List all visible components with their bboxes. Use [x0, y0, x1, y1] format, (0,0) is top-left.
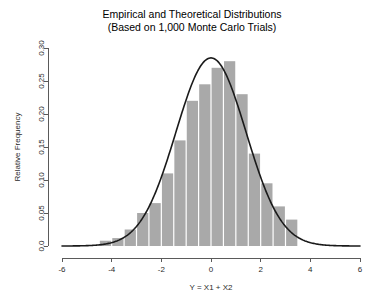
y-axis-tick-label: 0.05: [37, 205, 46, 221]
y-axis-tick-label: 0.25: [37, 73, 46, 89]
x-axis-tick-label: -6: [58, 265, 66, 274]
y-axis-tick-label: 0.30: [37, 40, 46, 56]
x-axis-tick-label: 6: [358, 265, 363, 274]
x-axis-tick-label: -4: [108, 265, 116, 274]
y-axis-title: Relative Frequency: [13, 113, 22, 182]
x-axis-tick-label: -2: [158, 265, 166, 274]
x-axis-title: Y = X1 + X2: [190, 283, 234, 292]
chart-svg: -6-4-20246Y = X1 + X20.00.050.100.150.20…: [0, 0, 384, 299]
x-axis-tick-label: 0: [209, 265, 214, 274]
histogram-bar: [187, 101, 198, 246]
histogram-bar: [174, 140, 185, 246]
histogram-bar: [212, 68, 223, 246]
chart-container: Empirical and Theoretical Distributions …: [0, 0, 384, 299]
histogram-bar: [249, 154, 260, 246]
y-axis-tick-label: 0.20: [37, 106, 46, 122]
y-axis-tick-label: 0.10: [37, 172, 46, 188]
x-axis-tick-label: 2: [258, 265, 263, 274]
theoretical-normal-curve: [62, 58, 360, 246]
histogram-bar: [150, 203, 161, 246]
histogram-bar: [224, 61, 235, 246]
y-axis-tick-label: 0.0: [37, 240, 46, 252]
histogram-bar: [199, 84, 210, 246]
y-axis-tick-label: 0.15: [37, 139, 46, 155]
histogram-bar: [162, 173, 173, 246]
x-axis-tick-label: 4: [308, 265, 313, 274]
